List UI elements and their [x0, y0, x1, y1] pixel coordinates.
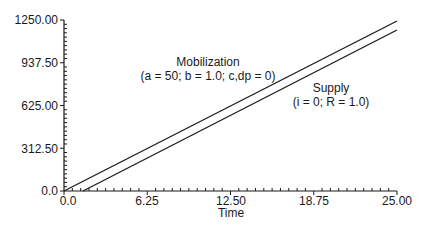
x-tick-label: 18.75 [299, 194, 329, 208]
mobilization-label: Mobilization [176, 55, 239, 69]
supply-line [83, 30, 397, 191]
y-tick-label: 937.50 [21, 56, 58, 70]
x-axis-label: Time [218, 206, 245, 220]
y-tick-label: 1250.00 [15, 13, 59, 27]
mobilization-params: (a = 50; b = 1.0; c,dp = 0) [140, 69, 275, 83]
y-tick-label: 312.50 [21, 142, 58, 156]
supply-label: Supply [313, 81, 350, 95]
x-tick-label: 25.00 [382, 194, 412, 208]
chart: 1250.00 937.50 625.00 312.50 0.0 0.0 6.2… [0, 0, 438, 227]
y-tick-label: 625.00 [21, 99, 58, 113]
x-tick-label: 6.25 [135, 194, 159, 208]
y-tick-label: 0.0 [41, 184, 58, 198]
supply-params: (i = 0; R = 1.0) [293, 95, 370, 109]
x-tick-label: 0.0 [60, 194, 77, 208]
